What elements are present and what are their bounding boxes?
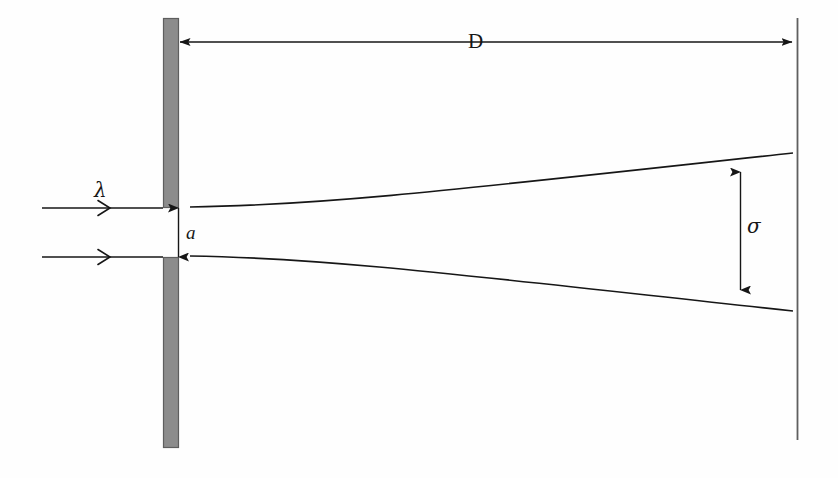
diagram-canvas <box>0 0 838 478</box>
distance-label-D: D <box>468 31 483 52</box>
diffraction-envelope-lower <box>190 256 793 311</box>
slit-barrier-lower <box>164 258 179 448</box>
slit-width-label-a: a <box>186 223 196 242</box>
single-slit-diffraction-figure: D λ a σ <box>0 0 838 478</box>
spread-label-sigma: σ <box>747 216 761 236</box>
wavelength-label-lambda: λ <box>94 180 107 200</box>
diffraction-envelope-upper <box>190 153 793 207</box>
slit-barrier-upper <box>164 19 179 208</box>
